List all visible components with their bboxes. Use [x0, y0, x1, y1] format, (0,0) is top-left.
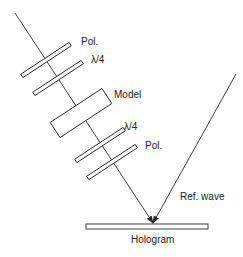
label-quarter-wave-top: λ/4	[91, 55, 104, 65]
label-hologram: Hologram	[131, 235, 174, 245]
model	[50, 88, 112, 137]
diagram-graphics	[0, 0, 243, 257]
holography-setup-diagram: Pol. λ/4 Model λ/4 Pol. Ref. wave Hologr…	[0, 0, 243, 257]
hologram-plate	[86, 224, 208, 229]
label-polarizer-top: Pol.	[81, 37, 98, 47]
label-model: Model	[114, 90, 141, 100]
label-reference-wave: Ref. wave	[180, 192, 224, 202]
label-quarter-wave-bottom: λ/4	[124, 122, 137, 132]
label-polarizer-bottom: Pol.	[145, 141, 162, 151]
